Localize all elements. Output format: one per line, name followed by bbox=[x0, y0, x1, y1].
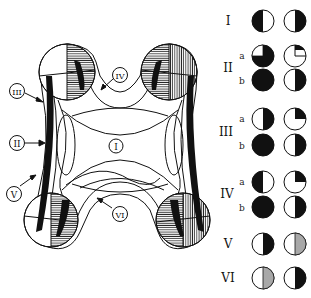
legend-row-IVa bbox=[252, 171, 306, 193]
svg-text:VI: VI bbox=[115, 211, 125, 220]
label-IV: IV bbox=[113, 68, 128, 83]
label-VI: VI bbox=[113, 207, 128, 222]
legend-row-IVb bbox=[252, 196, 306, 218]
svg-text:II: II bbox=[13, 139, 21, 149]
legend-row-IIb bbox=[252, 69, 306, 91]
label-I: I bbox=[109, 139, 123, 153]
legend-sub-IIIb: b bbox=[239, 141, 245, 151]
legend-sub-IIIa: a bbox=[239, 114, 245, 124]
label-II: II bbox=[10, 136, 25, 151]
svg-text:I: I bbox=[114, 142, 118, 152]
label-III: III bbox=[10, 84, 25, 99]
legend-row-V bbox=[252, 233, 306, 255]
legend-sub-IVb: b bbox=[239, 203, 245, 213]
legend-roman-V: V bbox=[223, 237, 233, 251]
legend-row-I bbox=[252, 10, 306, 32]
legend-roman-III: III bbox=[219, 125, 233, 139]
legend-roman-II: II bbox=[223, 61, 233, 75]
head-bottom-left bbox=[24, 193, 78, 247]
legend-roman-VI: VI bbox=[220, 271, 235, 285]
legend-sub-IIa: a bbox=[239, 51, 245, 61]
legend-row-VI bbox=[252, 267, 306, 289]
legend: I II III IV V VI a b a b a b bbox=[219, 10, 306, 289]
label-V: V bbox=[7, 187, 22, 202]
svg-text:IV: IV bbox=[116, 72, 125, 81]
legend-row-IIa bbox=[252, 45, 306, 67]
figure-canvas: I II III IV V VI I II III IV V VI bbox=[0, 0, 311, 298]
legend-roman-IV: IV bbox=[220, 187, 234, 201]
legend-sub-IVa: a bbox=[239, 177, 245, 187]
svg-text:III: III bbox=[12, 88, 21, 97]
legend-sub-IIb: b bbox=[239, 76, 245, 86]
legend-row-IIIa bbox=[252, 108, 306, 130]
legend-roman-I: I bbox=[226, 14, 231, 28]
svg-text:V: V bbox=[10, 190, 18, 200]
legend-row-IIIb bbox=[252, 134, 306, 156]
